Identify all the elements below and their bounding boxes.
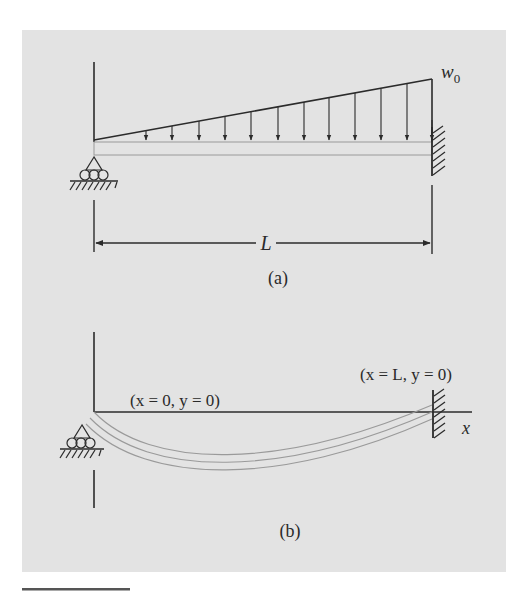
span-label: L bbox=[259, 232, 271, 254]
right-boundary-condition: (x = L, y = 0) bbox=[360, 365, 452, 384]
caption-a: (a) bbox=[268, 268, 288, 289]
x-axis-label: x bbox=[461, 418, 470, 438]
left-boundary-condition: (x = 0, y = 0) bbox=[130, 391, 220, 410]
beam-figure: w0 bbox=[0, 0, 520, 591]
footnote-rule bbox=[22, 588, 130, 591]
caption-b: (b) bbox=[280, 521, 301, 542]
